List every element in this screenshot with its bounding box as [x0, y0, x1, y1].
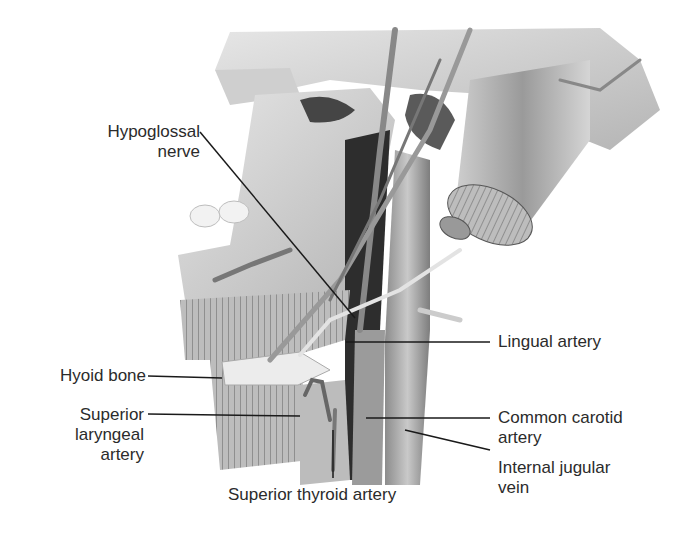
common-carotid-artery	[352, 330, 385, 485]
label-line: artery	[0, 445, 144, 465]
label-hypoglossal-nerve: Hypoglossal nerve	[70, 122, 200, 162]
anatomy-diagram: Hypoglossal nerve Lingual artery Hyoid b…	[0, 0, 692, 538]
label-superior-laryngeal-artery: Superior laryngeal artery	[0, 405, 144, 465]
label-line: Superior	[0, 405, 144, 425]
label-hyoid-bone: Hyoid bone	[0, 366, 146, 386]
label-line: laryngeal	[0, 425, 144, 445]
leader-hyoid-bone	[148, 376, 222, 378]
label-line: vein	[498, 478, 610, 498]
label-line: nerve	[70, 142, 200, 162]
label-line: Hypoglossal	[70, 122, 200, 142]
label-internal-jugular-vein: Internal jugular vein	[498, 458, 610, 498]
label-line: Common carotid	[498, 408, 623, 428]
label-line: artery	[498, 428, 623, 448]
label-superior-thyroid-artery: Superior thyroid artery	[228, 485, 396, 505]
label-lingual-artery: Lingual artery	[498, 332, 601, 352]
label-line: Internal jugular	[498, 458, 610, 478]
label-common-carotid-artery: Common carotid artery	[498, 408, 623, 448]
